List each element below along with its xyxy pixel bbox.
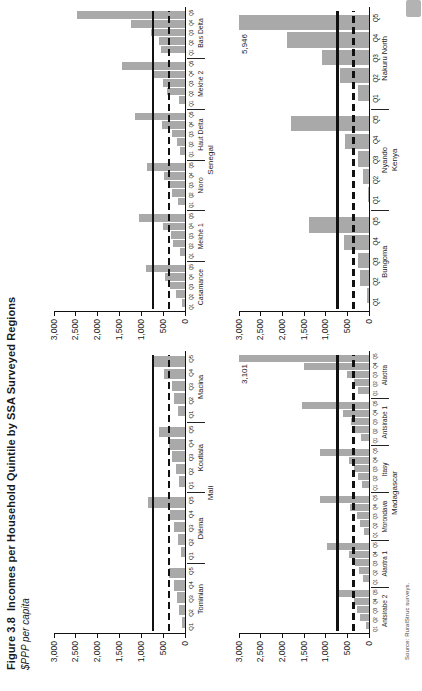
quintile-label: Q1: [188, 623, 196, 630]
bar-group: [291, 108, 369, 209]
bar: [361, 434, 370, 441]
bar: [360, 520, 369, 527]
bar: [239, 355, 369, 362]
quintile-label: Q5: [188, 426, 196, 433]
bar: [354, 379, 369, 386]
bar: [287, 32, 369, 48]
bar: [358, 85, 370, 101]
quintile-labels: Q1Q2Q3Q4Q5: [371, 8, 380, 109]
region-label: Bungoma: [380, 211, 389, 312]
quintile-label: Q3: [188, 383, 196, 390]
quintile-label: Q3: [188, 132, 196, 138]
reference-line-dashed: [168, 355, 171, 631]
plot-area: [54, 7, 186, 312]
quintile-label: Q1: [188, 304, 196, 310]
source-note: Source: RuralStruc surveys.: [404, 583, 410, 660]
y-tick-label: 3,000: [234, 319, 244, 340]
quintile-label: Q2: [188, 468, 196, 475]
quintile-label: Q4: [372, 505, 380, 511]
bar: [309, 217, 369, 233]
quintile-label: Q4: [188, 274, 196, 280]
region-cell: Q1Q2Q3Q4Q5Bungoma: [371, 210, 389, 312]
quintile-label: Q2: [188, 609, 196, 616]
quintile-label: Q3: [188, 454, 196, 461]
quintile-label: Q3: [372, 608, 380, 614]
quintile-label: Q3: [188, 525, 196, 532]
bar: [179, 605, 185, 616]
y-tick-label: 0: [364, 641, 374, 646]
quintile-labels: Q1Q2Q3Q4Q5: [371, 399, 380, 445]
bar: [179, 476, 185, 487]
quintile-label: Q2: [188, 243, 196, 249]
x-axis-labels: Q1Q2Q3Q4Q5Antsirabe 2Q1Q2Q3Q4Q5Alaotra 1…: [371, 352, 399, 634]
y-tick: [347, 312, 348, 316]
quintile-label: Q2: [372, 570, 380, 576]
y-tick-label: 3,000: [49, 319, 59, 340]
quintile-labels: Q1Q2Q3Q4Q5: [371, 110, 380, 211]
bar: [345, 134, 369, 150]
quintile-label: Q1: [188, 553, 196, 560]
bar-group: [309, 210, 369, 311]
y-tick-label: 500: [158, 641, 168, 655]
quintile-label: Q3: [372, 258, 380, 266]
y-tick-label: 500: [342, 641, 352, 655]
quintile-label: Q4: [372, 363, 380, 369]
quintile-labels: Q1Q2Q3Q4Q5: [187, 161, 196, 211]
quintile-labels: Q1Q2Q3Q4Q5: [371, 541, 380, 587]
quintile-label: Q1: [188, 152, 196, 158]
bar: [360, 270, 369, 286]
region-label: Itasy: [380, 446, 389, 492]
figure-number: Figure 3.8: [5, 617, 17, 670]
y-tick-label: 2,000: [92, 641, 102, 662]
bar: [168, 181, 185, 189]
quintile-label: Q3: [372, 514, 380, 520]
y-tick: [282, 634, 283, 638]
bar: [354, 598, 369, 605]
quintile-label: Q3: [188, 595, 196, 602]
y-tick-label: 1,500: [114, 319, 124, 340]
y-tick: [304, 634, 305, 638]
quintile-label: Q1: [188, 482, 196, 489]
region-label: Alaotra 1: [380, 541, 389, 587]
region-cells: Q1Q2Q3Q4Q5TominianQ1Q2Q3Q4Q5DiémaQ1Q2Q3Q…: [187, 352, 205, 634]
quintile-label: Q4: [188, 582, 196, 589]
region-label: Casamance: [196, 262, 205, 312]
quintile-label: Q4: [372, 238, 380, 246]
y-tick: [141, 634, 142, 638]
bar: [357, 606, 369, 613]
quintile-label: Q3: [188, 81, 196, 87]
bar: [358, 151, 369, 167]
quintile-label: Q1: [372, 485, 380, 491]
y-tick: [97, 634, 98, 638]
y-tick-label: 1,000: [136, 641, 146, 662]
bar: [131, 20, 185, 28]
region-cell: Q1Q2Q3Q4Q5Koutiala: [187, 422, 205, 493]
quintile-label: Q5: [372, 401, 380, 407]
y-tick-label: 0: [180, 641, 190, 646]
y-tick: [75, 634, 76, 638]
y-tick-label: 3,000: [234, 641, 244, 662]
y-tick-label: 0: [180, 319, 190, 324]
quintile-label: Q2: [372, 176, 380, 184]
bar-group: [320, 445, 369, 492]
region-label: Nakuru North: [380, 8, 389, 109]
region-label: Nyando: [380, 110, 389, 211]
y-axis: 05001,0001,5002,0002,5003,000: [239, 634, 369, 661]
page-edge-tab: [406, 0, 421, 17]
figure-title: Figure 3.8Incomes per Household Quintile…: [5, 297, 17, 670]
quintile-label: Q4: [372, 34, 380, 42]
bar: [170, 510, 185, 521]
bar: [291, 116, 369, 132]
bar: [320, 449, 369, 456]
plot-area: [239, 7, 370, 312]
region-cell: Q1Q2Q3Q4Q5Nioro: [187, 160, 205, 211]
bar-group: [239, 7, 369, 108]
quintile-label: Q2: [372, 429, 380, 435]
quintile-label: Q2: [188, 539, 196, 546]
bar: [174, 393, 185, 404]
bar: [171, 231, 185, 239]
quintile-label: Q4: [188, 173, 196, 179]
chart-panel-kenya: 05001,0001,5002,0002,5003,0005,946Q1Q2Q3…: [239, 8, 401, 339]
quintile-labels: Q1Q2Q3Q4Q5: [187, 262, 196, 312]
quintile-labels: Q1Q2Q3Q4Q5: [187, 494, 196, 564]
